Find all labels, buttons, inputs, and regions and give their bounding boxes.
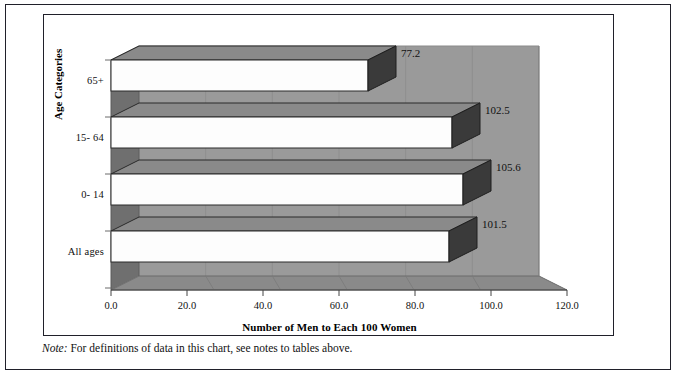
note-lead-label: Note: xyxy=(42,342,68,354)
bar-top-65plus xyxy=(111,46,396,60)
y-tick-label-0-14: 0- 14 xyxy=(32,189,104,200)
bar-top-0-14 xyxy=(111,160,491,174)
bar-top-15-64 xyxy=(111,103,480,117)
plot-area-3d: 65+ 15- 64 0- 14 All ages 0.0 20.0 40.0 … xyxy=(44,15,615,337)
x-tick-label-20: 20.0 xyxy=(157,300,217,311)
note-body-text: For definitions of data in this chart, s… xyxy=(68,342,353,354)
bar-face-65plus xyxy=(111,60,368,91)
data-label-65plus: 77.2 xyxy=(401,47,420,59)
x-tick-label-120: 120.0 xyxy=(537,300,597,311)
y-tick-label-15-64: 15- 64 xyxy=(32,132,104,143)
data-label-0-14: 105.6 xyxy=(496,161,521,173)
y-axis-ticks xyxy=(105,60,111,288)
x-axis-title: Number of Men to Each 100 Women xyxy=(44,321,615,333)
y-axis-title: Age Categories xyxy=(52,49,64,120)
bar-face-0-14 xyxy=(111,174,463,205)
x-tick-label-0: 0.0 xyxy=(81,300,141,311)
x-tick-label-40: 40.0 xyxy=(233,300,293,311)
data-label-all-ages: 101.5 xyxy=(482,218,507,230)
chart-border: 65+ 15- 64 0- 14 All ages 0.0 20.0 40.0 … xyxy=(43,14,614,336)
y-tick-label-65plus: 65+ xyxy=(32,75,104,86)
bar-face-all-ages xyxy=(111,231,449,262)
x-tick-label-60: 60.0 xyxy=(309,300,369,311)
data-label-15-64: 102.5 xyxy=(485,104,510,116)
x-axis-ticks xyxy=(111,290,567,296)
floor-panel xyxy=(111,276,567,290)
bar-face-15-64 xyxy=(111,117,452,148)
figure-page: 65+ 15- 64 0- 14 All ages 0.0 20.0 40.0 … xyxy=(0,0,679,377)
chart-svg xyxy=(44,15,615,337)
figure-note: Note: For definitions of data in this ch… xyxy=(42,342,352,354)
y-tick-label-all-ages: All ages xyxy=(32,246,104,257)
x-tick-label-80: 80.0 xyxy=(385,300,445,311)
x-tick-label-100: 100.0 xyxy=(461,300,521,311)
bar-top-all-ages xyxy=(111,217,477,231)
